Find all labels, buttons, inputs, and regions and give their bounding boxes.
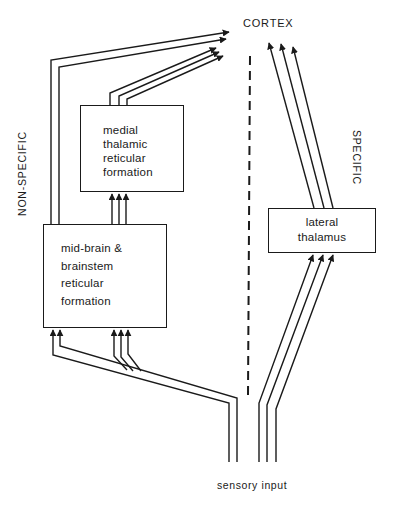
lateral-to-cortex-path-1 <box>269 43 314 208</box>
lateral-to-cortex-path-2 <box>281 44 324 208</box>
input-to-midbrain-path-1 <box>53 330 229 462</box>
midbrain-box-text: mid-brain & brainstem reticular formatio… <box>61 240 122 310</box>
midbrain-line-2: brainstem <box>61 258 122 276</box>
lateral-line-2: thalamus <box>269 230 375 245</box>
lateral-line-1: lateral <box>269 215 375 230</box>
medial-to-cortex-path-2 <box>119 52 219 105</box>
non-specific-label: NON-SPECIFIC <box>16 131 28 216</box>
midbrain-brainstem-reticular-box: mid-brain & brainstem reticular formatio… <box>43 224 167 328</box>
medial-line-1: medial <box>103 123 153 137</box>
lateral-to-cortex-path-3 <box>293 47 333 208</box>
input-to-midbrain-path-2 <box>60 330 237 462</box>
midbrain-line-1: mid-brain & <box>61 240 122 258</box>
midbrain-line-4: formation <box>61 293 122 311</box>
medial-box-text: medial thalamic reticular formation <box>103 123 153 179</box>
sensory-input-label: sensory input <box>217 479 287 491</box>
specific-label: SPECIFIC <box>351 130 363 185</box>
medial-thalamic-reticular-box: medial thalamic reticular formation <box>80 105 184 192</box>
medial-line-4: formation <box>103 165 153 179</box>
cortex-label: CORTEX <box>243 17 293 29</box>
medial-line-2: thalamic <box>103 137 153 151</box>
lateral-box-text: lateral thalamus <box>269 215 375 245</box>
divider-dashed-line <box>248 56 250 396</box>
lateral-thalamus-box: lateral thalamus <box>268 208 376 253</box>
medial-line-3: reticular <box>103 151 153 165</box>
input-to-midbrain-path-5 <box>128 330 141 371</box>
medial-to-cortex-path-3 <box>127 56 223 105</box>
midbrain-line-3: reticular <box>61 275 122 293</box>
